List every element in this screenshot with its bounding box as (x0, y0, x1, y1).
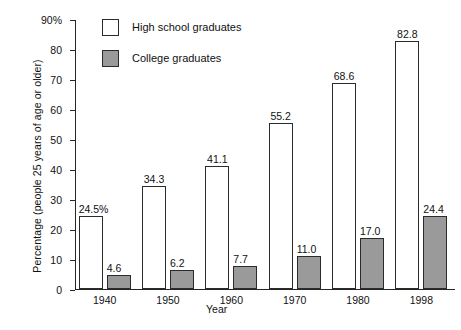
y-axis-tick: 90% (70, 20, 75, 21)
y-axis-tick: 20 (70, 230, 75, 231)
legend-item-high-school: High school graduates (102, 18, 241, 36)
legend-item-college: College graduates (102, 49, 241, 67)
y-axis-tick-label: 30 (50, 194, 62, 206)
y-axis-tick: 30 (70, 200, 75, 201)
bar-value-label: 24.4 (423, 203, 443, 215)
bar-high-school-1950: 34.3 (142, 186, 166, 289)
y-axis-tick-label: 0 (56, 284, 62, 296)
legend-label-college: College graduates (132, 52, 221, 64)
bar-value-label: 82.8 (397, 28, 417, 40)
x-axis-line (75, 289, 455, 290)
chart-legend: High school graduates College graduates (102, 18, 241, 80)
bar-value-label: 68.6 (334, 70, 354, 82)
bar-college-1970: 11.0 (297, 256, 321, 289)
bar-value-label: 41.1 (207, 153, 227, 165)
bar-value-label: 34.3 (144, 173, 164, 185)
bar-high-school-1960: 41.1 (205, 166, 229, 289)
y-axis-tick-label: 70 (50, 74, 62, 86)
x-axis-tick-label: 1970 (283, 294, 306, 306)
y-axis-tick-label: 80 (50, 44, 62, 56)
y-axis-tick-label: 60 (50, 104, 62, 116)
bar-high-school-1970: 55.2 (269, 123, 293, 289)
grey-square-icon (102, 50, 119, 67)
x-axis-tick-label: 1980 (346, 294, 369, 306)
y-axis-tick: 0 (70, 290, 75, 291)
y-axis-tick: 50 (70, 140, 75, 141)
y-axis-tick: 60 (70, 110, 75, 111)
y-axis-tick: 40 (70, 170, 75, 171)
x-axis-tick-label: 1950 (156, 294, 179, 306)
y-axis-tick: 70 (70, 80, 75, 81)
bar-value-label: 24.5% (79, 203, 109, 215)
x-axis-tick-label: 1940 (93, 294, 116, 306)
bar-college-1960: 7.7 (233, 266, 257, 289)
bar-value-label: 17.0 (360, 225, 380, 237)
white-square-icon (102, 19, 119, 36)
bar-high-school-1980: 68.6 (332, 83, 356, 289)
bar-value-label: 55.2 (270, 110, 290, 122)
y-axis-tick-label: 50 (50, 134, 62, 146)
bar-value-label: 4.6 (107, 262, 122, 274)
y-axis-title: Percentage (people 25 years of age or ol… (31, 41, 43, 291)
bar-value-label: 7.7 (233, 253, 248, 265)
y-axis-tick: 10 (70, 260, 75, 261)
bar-college-1998: 24.4 (423, 216, 447, 289)
bar-college-1980: 17.0 (360, 238, 384, 289)
bar-college-1950: 6.2 (170, 270, 194, 289)
bar-value-label: 6.2 (170, 257, 185, 269)
y-axis-line (75, 20, 76, 290)
y-axis-tick-label: 40 (50, 164, 62, 176)
bar-high-school-1940: 24.5% (79, 216, 103, 290)
bar-value-label: 11.0 (297, 243, 317, 255)
x-axis-title: Year (206, 303, 227, 315)
bar-college-1940: 4.6 (107, 275, 131, 289)
legend-label-high-school: High school graduates (132, 21, 241, 33)
bar-chart: Percentage (people 25 years of age or ol… (0, 0, 461, 330)
x-axis-tick-label: 1998 (410, 294, 433, 306)
y-axis-tick-label: 10 (50, 254, 62, 266)
y-axis-tick-label: 20 (50, 224, 62, 236)
y-axis-tick: 80 (70, 50, 75, 51)
y-axis-tick-label: 90% (41, 14, 62, 26)
bar-high-school-1998: 82.8 (395, 41, 419, 289)
